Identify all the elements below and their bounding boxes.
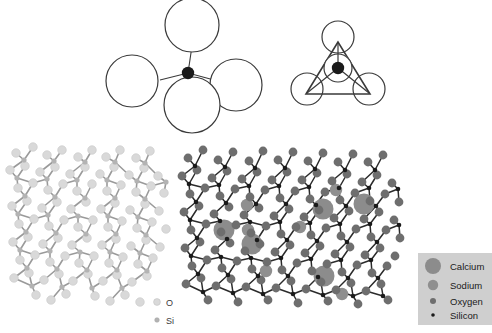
- oxygen-atom: [353, 261, 362, 270]
- oxygen-atom: [298, 176, 307, 185]
- silicon-atom: [308, 221, 313, 226]
- oxygen-atom: [29, 179, 38, 188]
- oxygen-atom: [382, 226, 391, 235]
- silicon-atom: [315, 239, 320, 244]
- silicon-atom: [367, 186, 372, 191]
- silicon-atom: [107, 249, 112, 254]
- oxygen-atom: [134, 260, 143, 269]
- oxygen-atom: [73, 187, 82, 196]
- oxygen-atom: [238, 175, 247, 184]
- oxygen-atom: [210, 210, 219, 219]
- silicon-atom: [47, 248, 52, 253]
- oxygen-atom: [119, 253, 128, 262]
- oxygen-atom: [337, 232, 346, 241]
- oxygen-atom: [259, 147, 268, 156]
- oxygen-atom: [272, 284, 281, 293]
- silicon-atom: [286, 274, 291, 279]
- silicon-atom: [344, 204, 349, 209]
- silicon-atom: [75, 213, 80, 218]
- silicon-atom: [381, 294, 386, 299]
- silicon-atom: [51, 158, 56, 163]
- oxygen-atom: [149, 254, 158, 263]
- oxygen-atom: [21, 162, 30, 171]
- oxygen-atom: [331, 250, 340, 259]
- oxygen-atom: [99, 277, 108, 286]
- oxygen-circle-left: [106, 55, 158, 107]
- oxygen-atom: [361, 251, 370, 260]
- oxygen-atom: [264, 296, 273, 305]
- oxygen-atom: [58, 146, 67, 155]
- oxygen-atom: [96, 170, 105, 179]
- oxygen-atom: [182, 280, 191, 289]
- oxygen-atom: [375, 208, 384, 217]
- oxygen-atom: [147, 182, 156, 191]
- silicon-atom-center-plan: [332, 62, 344, 74]
- oxygen-atom: [216, 192, 225, 201]
- oxygen-atom: [364, 158, 373, 167]
- silicon-atom: [196, 272, 201, 277]
- oxygen-atom: [62, 290, 71, 299]
- silicon-atom: [219, 255, 224, 260]
- silicon-atom: [343, 168, 348, 173]
- oxygen-atom: [132, 154, 141, 163]
- oxygen-atom: [180, 208, 189, 217]
- oxygen-atom: [217, 228, 226, 237]
- silicon-atom: [114, 267, 119, 272]
- oxygen-atom: [16, 256, 25, 265]
- oxygen-atom: [60, 216, 69, 225]
- silicon-atom: [59, 284, 64, 289]
- oxygen-atom: [98, 241, 107, 250]
- oxygen-atom: [74, 153, 83, 162]
- oxygen-atom: [43, 151, 52, 160]
- oxygen-atom: [132, 188, 141, 197]
- silicon-atom: [338, 222, 343, 227]
- oxygen-atom: [91, 292, 100, 301]
- oxygen-atom: [88, 146, 97, 155]
- silicon-atom: [21, 157, 26, 162]
- sodium-atom: [330, 184, 342, 196]
- silicon-atom: [283, 166, 288, 171]
- silicon-atom: [44, 176, 49, 181]
- oxygen-atom: [231, 185, 240, 194]
- silicon-atom: [144, 268, 149, 273]
- silicon-atom: [397, 223, 402, 228]
- oxygen-atom: [188, 262, 197, 271]
- oxygen-atom: [366, 197, 375, 206]
- oxygen-swatch-icon: [154, 299, 161, 306]
- oxygen-atom: [395, 198, 404, 207]
- legend-label-sodium: Sodium: [450, 280, 482, 291]
- silicon-atom: [194, 200, 199, 205]
- silicon-atom: [375, 240, 380, 245]
- oxygen-atom: [332, 286, 341, 295]
- oxygen-atom: [391, 252, 400, 261]
- oxygen-atom: [32, 291, 41, 300]
- oxygen-atom: [14, 184, 23, 193]
- silicon-atom: [285, 238, 290, 243]
- silicon-atom: [113, 231, 118, 236]
- silicon-atom: [112, 159, 117, 164]
- silicon-atom: [339, 258, 344, 263]
- silicon-atom: [54, 266, 59, 271]
- silicon-atom: [15, 211, 20, 216]
- silicon-atom: [321, 293, 326, 298]
- oxygen-atom: [126, 206, 135, 215]
- silicon-atom: [143, 232, 148, 237]
- oxygen-circle-front: [164, 77, 220, 133]
- silicon-atom: [17, 247, 22, 252]
- figure-canvas: O Si CalciumSodiumOxygenSilicon: [0, 0, 492, 333]
- oxygen-atom: [321, 188, 330, 197]
- oxygen-atom: [204, 296, 213, 305]
- oxygen-atom: [241, 247, 250, 256]
- silicon-atom: [163, 179, 168, 184]
- oxygen-atom: [117, 181, 126, 190]
- silicon-atom: [83, 231, 88, 236]
- silicon-atom: [23, 229, 28, 234]
- oxygen-atom: [354, 300, 363, 309]
- oxygen-atom: [291, 187, 300, 196]
- silicon-atom: [74, 177, 79, 182]
- silicon-atom: [22, 193, 27, 198]
- oxygen-atom: [44, 186, 53, 195]
- silicon-atom: [195, 236, 200, 241]
- oxygen-atom: [334, 158, 343, 167]
- oxygen-atom: [349, 150, 358, 159]
